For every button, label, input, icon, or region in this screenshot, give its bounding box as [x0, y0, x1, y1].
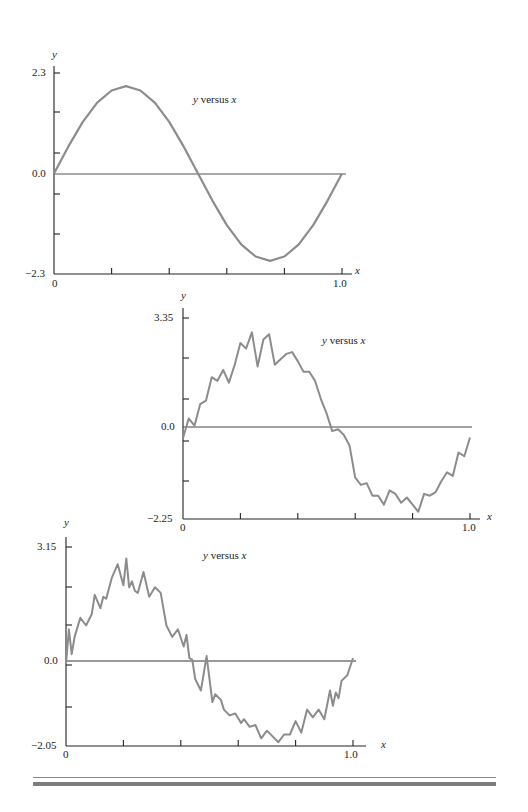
chart-3-x-axis-label: x [381, 738, 386, 750]
footer-thick-rule [33, 782, 496, 786]
chart-3-x-start-tick: 0 [63, 748, 69, 760]
chart-3-title: y versus x [203, 549, 246, 561]
chart-3-y-top-tick: 3.15 [37, 540, 56, 552]
chart-3-y-zero-tick: 0.0 [44, 654, 58, 666]
footer-thin-rule [33, 777, 496, 778]
chart-3-series-y [66, 559, 353, 743]
chart-3-plot [0, 0, 528, 812]
chart-3-x-end-tick: 1.0 [344, 748, 358, 760]
chart-3-y-axis-label: y [64, 516, 69, 528]
chart-3-y-bottom-tick: −2.05 [31, 739, 56, 751]
figure-page: y 2.3 0.0 −2.3 0 1.0 x y versus x [0, 0, 528, 812]
